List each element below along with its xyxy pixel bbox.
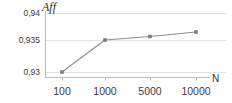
line-chart: 0,94 0,935 0,93 100 1000 5000 10000 Aff … <box>0 0 232 103</box>
axes <box>45 11 210 78</box>
data-series-aff <box>60 30 198 74</box>
data-point-marker <box>194 30 198 34</box>
x-tick-label-5000: 5000 <box>138 85 161 97</box>
data-point-marker <box>60 70 64 74</box>
x-axis-title: N <box>212 73 219 84</box>
x-tick-label-1000: 1000 <box>93 85 116 97</box>
gridlines <box>45 14 226 73</box>
y-tick-label: 0,935 <box>0 35 40 45</box>
data-point-marker <box>103 38 107 42</box>
x-tick-label-10000: 10000 <box>181 85 210 97</box>
y-tick-label: 0,94 <box>0 8 40 18</box>
x-tick-label-100: 100 <box>53 85 71 97</box>
series-line <box>62 32 196 72</box>
data-point-marker <box>148 35 152 39</box>
y-axis-title: Aff <box>42 0 56 15</box>
y-tick-label: 0,93 <box>0 67 40 77</box>
